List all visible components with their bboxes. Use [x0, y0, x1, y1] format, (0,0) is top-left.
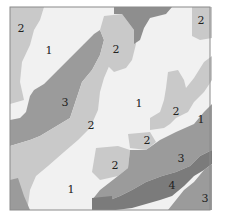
region-label-class-1: 1: [136, 98, 143, 109]
region-label-class-2: 2: [173, 106, 180, 117]
region-label-class-2: 2: [88, 120, 95, 131]
region-label-class-3: 3: [202, 193, 209, 204]
region-label-class-2: 2: [18, 23, 25, 34]
region-label-class-3: 3: [62, 97, 69, 108]
region-label-class-2: 2: [144, 135, 151, 146]
region-2-left-mid: [10, 62, 22, 82]
region-label-class-3: 3: [178, 153, 185, 164]
region-label-class-2: 2: [198, 15, 205, 26]
region-map: [0, 0, 227, 220]
region-label-class-4: 4: [169, 180, 176, 191]
region-label-class-2: 2: [113, 44, 120, 55]
region-4-bottom-center: [92, 196, 112, 210]
region-label-class-1: 1: [198, 114, 205, 125]
region-label-class-1: 1: [68, 184, 75, 195]
region-label-class-1: 1: [46, 45, 53, 56]
region-label-class-2: 2: [112, 160, 119, 171]
